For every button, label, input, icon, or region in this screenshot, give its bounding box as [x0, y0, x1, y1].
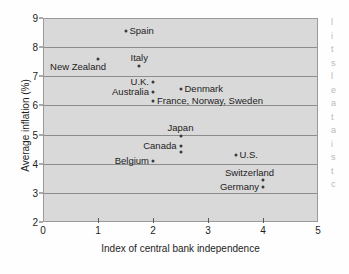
- data-point-label: Switzerland: [225, 168, 274, 178]
- x-tick-mark-1: [98, 218, 99, 223]
- data-point-label: Spain: [130, 26, 154, 36]
- y-tick-mark-6: [39, 105, 43, 106]
- data-point-label: U.S.: [240, 150, 258, 160]
- x-tick-mark-2: [153, 218, 154, 223]
- y-tick-mark-3: [39, 192, 43, 193]
- data-point-label: Germany: [220, 182, 259, 192]
- x-tick-label-3: 3: [198, 225, 218, 236]
- margin-bleed-line: i: [331, 138, 349, 152]
- data-point: [138, 65, 141, 68]
- x-tick-label-5: 5: [308, 225, 328, 236]
- data-point-label: Belgium: [115, 156, 149, 166]
- data-point-label: Denmark: [185, 84, 224, 94]
- margin-bleed-line: a: [331, 124, 349, 138]
- data-point-label: Australia: [112, 87, 149, 97]
- margin-bleed-line: c: [331, 178, 349, 192]
- gridline-y-3: [44, 193, 317, 194]
- data-point-label: Japan: [168, 123, 194, 133]
- y-tick-label-9: 9: [20, 13, 38, 24]
- x-tick-label-4: 4: [253, 225, 273, 236]
- margin-bleed-line: s: [331, 57, 349, 71]
- scatter-chart-figure: 23456789012345 SpainNew ZealandItalyU.K.…: [0, 0, 349, 274]
- margin-bleed-line: t: [331, 111, 349, 125]
- margin-bleed-line: e: [331, 84, 349, 98]
- y-tick-mark-9: [39, 18, 43, 19]
- data-point: [152, 81, 155, 84]
- margin-bleed-line: l: [331, 70, 349, 84]
- margin-bleed-line: t: [331, 165, 349, 179]
- plot-area: [43, 18, 318, 222]
- data-point: [262, 178, 265, 181]
- margin-bleed-line: t: [331, 43, 349, 57]
- margin-bleed-text: litsleataistc: [331, 16, 349, 246]
- margin-bleed-line: a: [331, 97, 349, 111]
- data-point: [179, 135, 182, 138]
- data-point: [124, 30, 127, 33]
- x-tick-label-0: 0: [33, 225, 53, 236]
- data-point: [152, 100, 155, 103]
- y-tick-mark-5: [39, 134, 43, 135]
- y-tick-mark-2: [39, 222, 43, 223]
- margin-bleed-line: i: [331, 30, 349, 44]
- data-point-label: Italy: [131, 53, 148, 63]
- data-point: [152, 159, 155, 162]
- y-tick-mark-8: [39, 47, 43, 48]
- x-tick-mark-4: [263, 218, 264, 223]
- y-tick-mark-4: [39, 163, 43, 164]
- data-point: [179, 145, 182, 148]
- data-point: [179, 151, 182, 154]
- margin-bleed-line: s: [331, 151, 349, 165]
- x-tick-label-2: 2: [143, 225, 163, 236]
- gridline-y-7: [44, 76, 317, 77]
- gridline-y-8: [44, 47, 317, 48]
- data-point: [262, 186, 265, 189]
- gridline-y-4: [44, 164, 317, 165]
- margin-bleed-line: l: [331, 16, 349, 30]
- x-tick-mark-3: [208, 218, 209, 223]
- x-axis-label: Index of central bank independence: [43, 243, 318, 254]
- data-point: [179, 88, 182, 91]
- y-axis-label: Average inflation (%): [20, 46, 31, 206]
- y-tick-mark-7: [39, 76, 43, 77]
- x-tick-label-1: 1: [88, 225, 108, 236]
- data-point-label: New Zealand: [50, 62, 106, 72]
- data-point-label: Canada: [143, 141, 176, 151]
- data-point: [234, 153, 237, 156]
- data-point-label: France, Norway, Sweden: [157, 96, 263, 106]
- data-point: [152, 91, 155, 94]
